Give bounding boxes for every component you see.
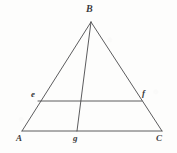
vertex-label-g: g: [73, 134, 78, 143]
vertex-label-e: e: [31, 90, 35, 99]
geometry-figure: B A C e f g: [0, 0, 177, 153]
vertex-label-f: f: [142, 89, 145, 98]
vertex-label-A: A: [16, 134, 22, 143]
figure-canvas: [0, 0, 177, 153]
vertex-label-B: B: [86, 4, 93, 14]
segment-side-BC: [91, 22, 162, 131]
segment-cevian-Bg: [77, 22, 91, 131]
vertex-label-C: C: [156, 134, 162, 143]
segment-side-AB: [22, 22, 91, 131]
